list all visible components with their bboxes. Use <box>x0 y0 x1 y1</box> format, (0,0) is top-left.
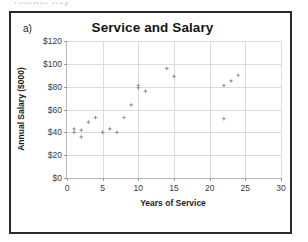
y-tick-label: $80 <box>48 82 62 92</box>
scatter-point <box>100 130 105 135</box>
y-tick-label: $120 <box>43 36 62 46</box>
x-tick-label: 10 <box>134 183 143 193</box>
x-gridline <box>245 41 246 178</box>
y-axis-title: Annual Salary ($000) <box>16 67 26 151</box>
x-tick-label: 25 <box>241 183 250 193</box>
x-tick-label: 30 <box>276 183 285 193</box>
scatter-point <box>86 120 91 125</box>
scatter-point <box>143 89 148 94</box>
page-top-cutoff-strip: Answer Key <box>0 0 308 11</box>
x-tick-label: 5 <box>100 183 105 193</box>
scatter-point <box>72 130 77 135</box>
x-tick-mark <box>281 178 282 181</box>
y-tick-label: $100 <box>43 59 62 69</box>
x-tick-mark <box>67 178 68 181</box>
x-tick-mark <box>210 178 211 181</box>
scatter-point <box>122 115 127 120</box>
x-gridline <box>210 41 211 178</box>
x-tick-mark <box>138 178 139 181</box>
chart-title: Service and Salary <box>11 20 294 35</box>
y-tick-mark <box>64 87 67 88</box>
x-tick-mark <box>174 178 175 181</box>
scatter-plot-area: $0$20$40$60$80$100$120051015202530 <box>66 41 281 179</box>
x-gridline <box>281 41 282 178</box>
y-tick-mark <box>64 64 67 65</box>
scatter-point <box>129 102 134 107</box>
scatter-point <box>164 66 169 71</box>
y-tick-label: $0 <box>53 173 62 183</box>
y-tick-label: $40 <box>48 127 62 137</box>
x-axis-title: Years of Service <box>66 198 280 208</box>
y-tick-mark <box>64 132 67 133</box>
scatter-point <box>93 115 98 120</box>
x-tick-label: 20 <box>205 183 214 193</box>
scatter-point <box>229 78 234 83</box>
scatter-point <box>221 116 226 121</box>
x-tick-label: 15 <box>169 183 178 193</box>
scatter-point <box>107 126 112 131</box>
y-tick-label: $60 <box>48 105 62 115</box>
cutoff-header-text: Answer Key <box>14 0 70 6</box>
y-tick-label: $20 <box>48 150 62 160</box>
scatter-point <box>172 74 177 79</box>
x-gridline <box>103 41 104 178</box>
x-tick-mark <box>103 178 104 181</box>
figure-frame: a) Service and Salary Annual Salary ($00… <box>9 11 292 234</box>
x-gridline <box>138 41 139 178</box>
y-tick-mark <box>64 155 67 156</box>
x-tick-mark <box>245 178 246 181</box>
scatter-point <box>236 73 241 78</box>
scatter-point <box>114 130 119 135</box>
x-tick-label: 0 <box>65 183 70 193</box>
scatter-point <box>79 134 84 139</box>
x-gridline <box>174 41 175 178</box>
y-tick-mark <box>64 41 67 42</box>
y-tick-mark <box>64 110 67 111</box>
